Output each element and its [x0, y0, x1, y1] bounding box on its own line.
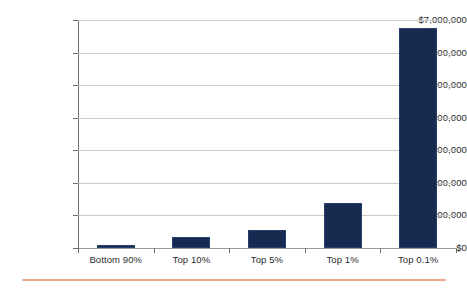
x-tick-label: Top 10% — [154, 255, 230, 265]
x-tick-mark — [154, 248, 155, 253]
x-tick-mark — [380, 248, 381, 253]
x-tick-mark — [78, 248, 79, 253]
bar — [172, 237, 210, 248]
x-tick-mark — [229, 248, 230, 253]
axis-baseline — [78, 248, 456, 249]
x-tick-mark — [456, 248, 457, 253]
footer-rule — [22, 279, 446, 281]
x-tick-mark — [305, 248, 306, 253]
bar — [324, 203, 362, 248]
bar — [248, 230, 286, 248]
gridline-7000000 — [78, 20, 456, 21]
bar — [97, 245, 135, 248]
x-tick-label: Top 5% — [229, 255, 305, 265]
x-tick-label: Top 0.1% — [380, 255, 456, 265]
bar-chart-figure: $0$1,000,000$2,000,000$3,000,000$4,000,0… — [0, 0, 467, 291]
x-tick-label: Bottom 90% — [78, 255, 154, 265]
bar — [399, 28, 437, 248]
plot-area — [78, 20, 456, 248]
x-tick-label: Top 1% — [305, 255, 381, 265]
